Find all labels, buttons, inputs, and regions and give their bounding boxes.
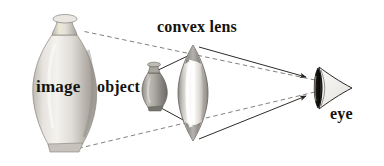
eye-lens: [314, 68, 322, 108]
label-object: object: [97, 79, 140, 95]
object-vase-rim: [148, 62, 161, 67]
eye-icon: [314, 67, 352, 109]
object-vase-body: [142, 73, 167, 109]
label-convex-lens: convex lens: [157, 19, 237, 35]
object-vase: [142, 62, 167, 111]
virtual-image-vase-rim: [53, 15, 77, 24]
ray-lens-top-to-eye: [199, 47, 306, 77]
convex-lens: [178, 45, 208, 141]
refracted-rays: [199, 47, 306, 139]
virtual-image-vase-foot: [48, 143, 83, 152]
lens-diagram-figure: image object convex lens eye: [0, 0, 384, 166]
ray-lens-bottom-to-eye: [199, 96, 306, 139]
object-vase-foot: [148, 106, 163, 111]
label-eye: eye: [330, 106, 353, 122]
label-image: image: [36, 78, 80, 95]
eye-body: [319, 67, 352, 109]
virtual-image-vase-neck: [52, 22, 77, 35]
